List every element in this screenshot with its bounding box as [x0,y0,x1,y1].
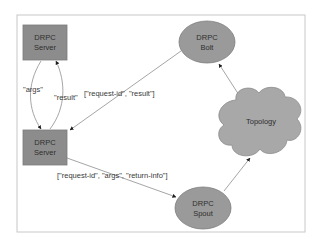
node-drpc-server-top-line2: Server [34,43,57,52]
edge-label-args: "args" [23,85,43,94]
node-drpc-server-bottom-line1: DRPC [34,138,56,147]
node-drpc-server-bottom-line2: Server [34,148,57,157]
edge-label-bolt-to-server: ["request-id", "result"] [84,89,155,98]
node-drpc-bolt-line1: DRPC [196,33,218,42]
drpc-flow-diagram: "args" "result" ["request-id", "result"]… [0,0,317,245]
node-drpc-bolt: DRPC Bolt [179,21,235,63]
node-drpc-server-top-line1: DRPC [34,33,56,42]
node-drpc-spout: DRPC Spout [175,187,231,229]
node-drpc-spout-line2: Spout [193,209,214,218]
edge-label-result: "result" [54,93,78,102]
node-topology-label: Topology [246,117,276,126]
node-drpc-spout-line1: DRPC [192,199,214,208]
node-drpc-server-bottom: DRPC Server [23,130,67,165]
node-drpc-server-top: DRPC Server [23,25,67,60]
edge-label-server-to-spout: ["request-id", "args", "return-info"] [57,171,168,180]
node-drpc-bolt-line2: Bolt [201,43,215,52]
